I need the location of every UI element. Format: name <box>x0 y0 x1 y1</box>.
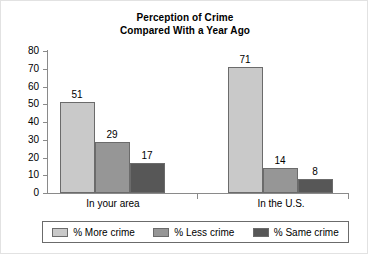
legend-entry[interactable]: % More crime <box>52 227 135 238</box>
chart-legend: % More crime% Less crime% Same crime <box>42 221 349 243</box>
bar <box>60 102 95 193</box>
y-axis-tick-label: 30 <box>15 135 39 145</box>
x-axis-group-label-1: In the U.S. <box>228 198 334 210</box>
legend-swatch-icon <box>52 228 68 237</box>
x-axis-group-label-0: In your area <box>60 198 166 210</box>
bar-value-label: 71 <box>228 54 263 65</box>
chart-title-line-1: Perception of Crime <box>1 11 368 24</box>
legend-swatch-icon <box>153 228 169 237</box>
y-axis-tick-label: 70 <box>15 64 39 74</box>
y-axis-tick-label: 40 <box>15 117 39 127</box>
bar-value-label: 51 <box>60 89 95 100</box>
y-axis-tick-label: 0 <box>15 188 39 198</box>
legend-label: % More crime <box>73 227 135 238</box>
bar <box>298 179 333 193</box>
legend-label: % Less crime <box>174 227 234 238</box>
y-axis-tick-label: 10 <box>15 170 39 180</box>
x-axis-tick-divider <box>197 194 198 199</box>
x-axis-tick-end <box>348 194 349 199</box>
bar <box>95 142 130 193</box>
legend-entry[interactable]: % Less crime <box>153 227 234 238</box>
bar <box>130 163 165 193</box>
bar <box>228 67 263 193</box>
bar-value-label: 29 <box>95 129 130 140</box>
chart-title: Perception of Crime Compared With a Year… <box>1 11 368 37</box>
y-axis-tick-label: 60 <box>15 82 39 92</box>
legend-swatch-icon <box>253 228 269 237</box>
y-axis-tick-label: 50 <box>15 99 39 109</box>
legend-entry[interactable]: % Same crime <box>253 227 339 238</box>
y-axis-tick <box>43 193 47 194</box>
y-axis-tick-label: 20 <box>15 153 39 163</box>
bar-value-label: 8 <box>298 166 333 177</box>
chart-title-line-2: Compared With a Year Ago <box>1 24 368 37</box>
bar-value-label: 17 <box>130 150 165 161</box>
bar <box>263 168 298 193</box>
plot-area: 51291771148 <box>47 51 349 193</box>
x-axis-line <box>47 193 349 194</box>
legend-label: % Same crime <box>274 227 339 238</box>
y-axis-tick-label: 80 <box>15 46 39 56</box>
bar-value-label: 14 <box>263 155 298 166</box>
bar-chart-figure: Perception of Crime Compared With a Year… <box>0 0 368 254</box>
